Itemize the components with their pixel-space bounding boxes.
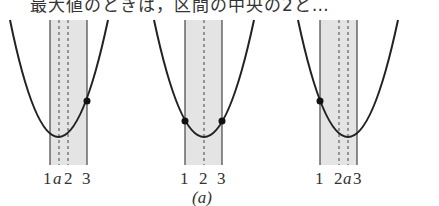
- tick-label: a: [53, 169, 62, 188]
- tick-label: 3: [82, 169, 91, 188]
- figure-caption: (a): [192, 188, 212, 206]
- max-point: [182, 118, 189, 125]
- tick-label: 2: [64, 169, 73, 188]
- panel-center: 1 2 3 (a): [154, 20, 254, 206]
- parabola-figure: 1 a 2 3 1 2 3 (a) 1 2 a 3: [0, 0, 439, 206]
- panel-left: 1 a 2 3: [10, 20, 108, 188]
- tick-label: 3: [217, 169, 226, 188]
- tick-label: a: [343, 169, 352, 188]
- tick-label: 1: [43, 169, 52, 188]
- tick-label: 1: [180, 169, 189, 188]
- panel-right: 1 2 a 3: [298, 20, 398, 188]
- tick-label: 3: [353, 169, 362, 188]
- max-point: [84, 98, 91, 105]
- tick-label: 2: [199, 169, 208, 188]
- tick-label: 1: [315, 169, 324, 188]
- max-point: [317, 98, 324, 105]
- max-point: [219, 118, 226, 125]
- tick-label: 2: [334, 169, 343, 188]
